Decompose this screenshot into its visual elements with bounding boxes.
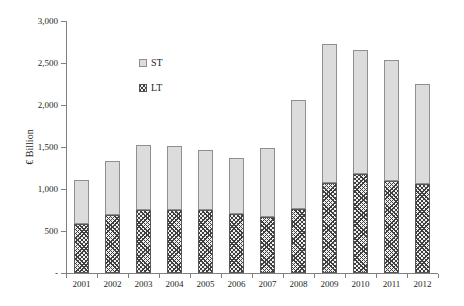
y-tick-mark-2000: [61, 105, 66, 106]
bar-segment-st-2001: [74, 180, 89, 224]
legend-label-st: ST: [151, 58, 163, 68]
legend: ST LT: [139, 55, 163, 105]
bar-segment-st-2011: [384, 60, 399, 180]
bar-segment-lt-2012: [415, 184, 430, 273]
x-tick-label-2012: 2012: [414, 280, 432, 289]
y-tick-label-0: -: [0, 269, 58, 278]
x-tick-mark-12: [438, 274, 439, 278]
bar-segment-lt-2004: [167, 210, 182, 273]
bar-segment-lt-2009: [322, 183, 337, 273]
bar-segment-st-2012: [415, 84, 430, 184]
legend-item-st: ST: [139, 55, 163, 71]
bar-segment-st-2004: [167, 146, 182, 210]
x-tick-mark-6: [252, 274, 253, 278]
x-tick-mark-9: [345, 274, 346, 278]
x-tick-label-2006: 2006: [228, 280, 246, 289]
x-tick-mark-1: [97, 274, 98, 278]
x-tick-label-2003: 2003: [135, 280, 153, 289]
x-tick-mark-0: [66, 274, 67, 278]
bar-segment-st-2010: [353, 50, 368, 173]
y-tick-label-1500: 1,500: [0, 143, 58, 152]
bar-segment-st-2008: [291, 100, 306, 209]
x-tick-label-2005: 2005: [197, 280, 215, 289]
bar-segment-st-2005: [198, 150, 213, 210]
y-tick-label-2000: 2,000: [0, 101, 58, 110]
y-tick-label-2500: 2,500: [0, 59, 58, 68]
bar-segment-lt-2005: [198, 210, 213, 273]
bar-segment-lt-2003: [136, 210, 151, 273]
x-tick-mark-8: [314, 274, 315, 278]
x-tick-mark-4: [190, 274, 191, 278]
x-tick-label-2002: 2002: [104, 280, 122, 289]
x-tick-mark-5: [221, 274, 222, 278]
x-tick-mark-2: [128, 274, 129, 278]
bar-segment-lt-2002: [105, 215, 120, 273]
y-tick-label-500: 500: [0, 227, 58, 236]
legend-item-lt: LT: [139, 80, 163, 96]
y-tick-mark-1500: [61, 147, 66, 148]
bar-segment-st-2007: [260, 148, 275, 217]
bar-segment-lt-2006: [229, 214, 244, 273]
bar-segment-st-2006: [229, 158, 244, 215]
stacked-bar-chart: € Billion -5001,0001,5002,0002,5003,0002…: [0, 0, 464, 306]
bar-segment-lt-2008: [291, 209, 306, 273]
bar-segment-lt-2007: [260, 217, 275, 273]
y-tick-label-1000: 1,000: [0, 185, 58, 194]
bar-segment-st-2009: [322, 44, 337, 183]
st-series-swatch-icon: [139, 59, 147, 67]
x-tick-label-2011: 2011: [383, 280, 401, 289]
bar-segment-st-2003: [136, 145, 151, 209]
x-tick-label-2008: 2008: [290, 280, 308, 289]
bar-segment-lt-2001: [74, 224, 89, 273]
x-tick-label-2004: 2004: [166, 280, 184, 289]
x-tick-mark-10: [376, 274, 377, 278]
bar-segment-lt-2011: [384, 181, 399, 273]
x-tick-label-2010: 2010: [352, 280, 370, 289]
lt-series-swatch-icon: [139, 84, 147, 92]
y-tick-mark-2500: [61, 63, 66, 64]
plot-area: [66, 21, 438, 274]
legend-label-lt: LT: [151, 83, 162, 93]
x-tick-mark-11: [407, 274, 408, 278]
x-tick-label-2007: 2007: [259, 280, 277, 289]
x-tick-label-2001: 2001: [73, 280, 91, 289]
y-tick-mark-500: [61, 231, 66, 232]
y-tick-mark-3000: [61, 21, 66, 22]
bar-segment-lt-2010: [353, 174, 368, 273]
x-tick-label-2009: 2009: [321, 280, 339, 289]
x-tick-mark-3: [159, 274, 160, 278]
bar-segment-st-2002: [105, 161, 120, 215]
y-tick-mark-1000: [61, 189, 66, 190]
y-tick-label-3000: 3,000: [0, 17, 58, 26]
x-tick-mark-7: [283, 274, 284, 278]
